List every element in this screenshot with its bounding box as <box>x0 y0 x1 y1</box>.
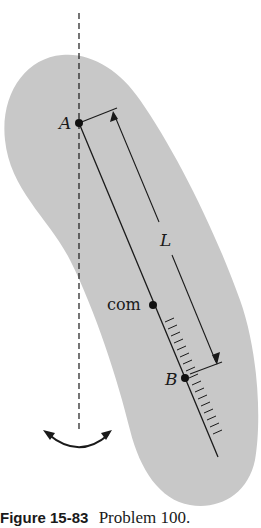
pendulum-diagram: A L com B <box>0 0 261 528</box>
label-com: com <box>107 295 141 314</box>
oscillation-arrow-icon <box>48 434 108 447</box>
point-b <box>181 374 189 382</box>
caption-text: Problem 100. <box>99 508 191 527</box>
figure-caption: Figure 15-83 Problem 100. <box>0 508 261 528</box>
pivot-point-a <box>75 119 83 127</box>
physical-pendulum-figure: A L com B Figure 15-83 Problem 100. <box>0 0 261 528</box>
label-a: A <box>57 113 71 133</box>
label-length-l: L <box>159 230 171 250</box>
center-of-mass-point <box>149 301 157 309</box>
pendulum-body <box>4 55 258 506</box>
figure-number: Figure 15-83 <box>0 509 88 526</box>
label-b: B <box>164 369 178 389</box>
